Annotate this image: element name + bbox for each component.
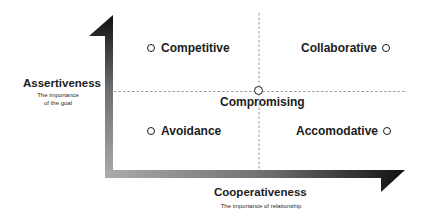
quadrant-avoidance-label: Avoidance bbox=[161, 124, 221, 138]
conflict-styles-diagram: Assertiveness The importance of the goal… bbox=[0, 0, 427, 221]
x-axis-sublabel: The importance of relationship bbox=[206, 202, 316, 210]
quadrant-collaborative: Collaborative bbox=[301, 41, 390, 55]
circle-marker-icon bbox=[147, 127, 155, 135]
y-axis-sublabel-line2: of the goal bbox=[23, 99, 93, 107]
center-circle-marker-icon bbox=[254, 86, 263, 95]
y-axis-sublabel-line1: The importance bbox=[23, 91, 93, 99]
quadrant-competitive-label: Competitive bbox=[161, 41, 230, 55]
circle-marker-icon bbox=[147, 44, 155, 52]
quadrant-accomodative-label: Accomodative bbox=[296, 124, 378, 138]
y-axis-label: Assertiveness bbox=[23, 76, 101, 90]
quadrant-accomodative: Accomodative bbox=[296, 124, 391, 138]
circle-marker-icon bbox=[383, 127, 391, 135]
quadrant-competitive: Competitive bbox=[147, 41, 230, 55]
circle-marker-icon bbox=[382, 44, 390, 52]
quadrant-collaborative-label: Collaborative bbox=[301, 41, 377, 55]
x-axis-label: Cooperativeness bbox=[214, 185, 307, 199]
quadrant-avoidance: Avoidance bbox=[147, 124, 221, 138]
center-compromising-label: Compromising bbox=[220, 95, 305, 109]
